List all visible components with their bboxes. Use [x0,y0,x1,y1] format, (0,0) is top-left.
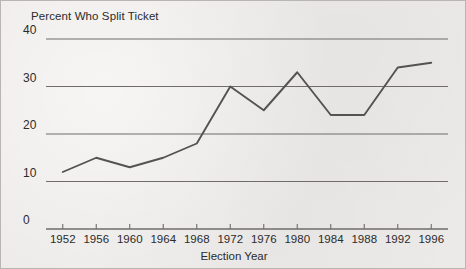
y-axis-label-10: 10 [23,166,36,180]
gridlines [46,39,448,229]
x-axis-caption: Election Year [1,250,466,262]
x-axis-label-1996: 1996 [409,233,453,245]
line-chart-plot [1,1,466,269]
data-line-series-percent-who-split-ticket [63,63,432,172]
y-axis-label-30: 30 [23,71,36,85]
chart-figure: Percent Who Split Ticket 010203040 19521… [0,0,466,269]
y-axis-label-40: 40 [23,23,36,37]
y-axis-label-0: 0 [23,213,30,227]
y-axis-label-20: 20 [23,118,36,132]
